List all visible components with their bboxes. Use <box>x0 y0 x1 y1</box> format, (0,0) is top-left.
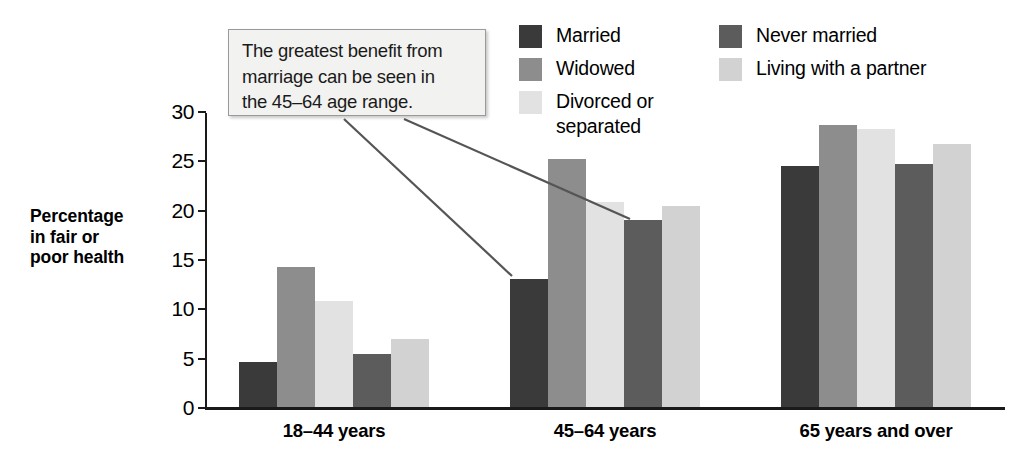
y-tick-label: 30 <box>171 101 194 122</box>
y-tick-mark <box>198 407 206 409</box>
legend-label: Widowed <box>556 56 635 81</box>
x-axis-category-label: 45–64 years <box>554 420 657 442</box>
bar <box>391 339 429 407</box>
legend-label: Living with a partner <box>756 56 926 81</box>
legend-swatch <box>519 91 542 114</box>
bar <box>662 206 700 407</box>
y-tick-label: 20 <box>171 199 194 220</box>
y-axis-title: Percentage in fair or poor health <box>30 206 170 268</box>
y-tick-label: 25 <box>171 150 194 171</box>
y-tick-mark <box>198 160 206 162</box>
x-axis-category-label: 18–44 years <box>283 420 386 442</box>
plot-area: 051015202530 18–44 years45–64 years65 ye… <box>205 108 1005 413</box>
y-tick-label: 10 <box>171 298 194 319</box>
legend-swatch <box>519 58 542 81</box>
legend-swatch <box>719 25 742 48</box>
y-tick-label: 0 <box>183 397 194 418</box>
y-tick-mark <box>198 210 206 212</box>
legend-column-2: Never marriedLiving with a partner <box>719 23 926 89</box>
legend-item: Married <box>519 23 654 48</box>
bar <box>510 279 548 407</box>
x-axis-category-label: 65 years and over <box>800 420 953 442</box>
bar <box>819 125 857 407</box>
y-tick-mark <box>198 111 206 113</box>
y-axis-title-line-3: poor health <box>30 247 170 268</box>
y-axis-title-line-2: in fair or <box>30 227 170 248</box>
bar-chart-figure: Percentage in fair or poor health 051015… <box>0 0 1013 462</box>
x-axis-line <box>205 407 1005 410</box>
legend-swatch <box>519 25 542 48</box>
y-tick-mark <box>198 308 206 310</box>
bar <box>548 159 586 407</box>
y-tick-label: 15 <box>171 249 194 270</box>
y-axis-title-line-1: Percentage <box>30 206 170 227</box>
annotation-callout-box: The greatest benefit from marriage can b… <box>228 29 486 116</box>
bar <box>353 354 391 407</box>
bar <box>895 164 933 407</box>
bar <box>624 220 662 407</box>
legend-item: Never married <box>719 23 926 48</box>
legend-label: Never married <box>756 23 877 48</box>
y-tick-label: 5 <box>183 347 194 368</box>
bar <box>857 129 895 407</box>
bar <box>586 202 624 407</box>
y-tick-mark <box>198 259 206 261</box>
legend-swatch <box>719 58 742 81</box>
legend-label: Divorced or separated <box>556 89 654 139</box>
legend-column-1: MarriedWidowedDivorced or separated <box>519 23 654 147</box>
legend-label: Married <box>556 23 621 48</box>
legend-item: Divorced or separated <box>519 89 654 139</box>
bar <box>239 362 277 407</box>
bar <box>315 301 353 407</box>
legend: MarriedWidowedDivorced or separated Neve… <box>519 23 999 138</box>
y-axis-line <box>205 113 207 409</box>
bar <box>781 166 819 407</box>
bar <box>277 267 315 407</box>
legend-item: Widowed <box>519 56 654 81</box>
legend-item: Living with a partner <box>719 56 926 81</box>
annotation-callout-text: The greatest benefit from marriage can b… <box>242 38 480 115</box>
y-tick-mark <box>198 358 206 360</box>
bar <box>933 144 971 407</box>
